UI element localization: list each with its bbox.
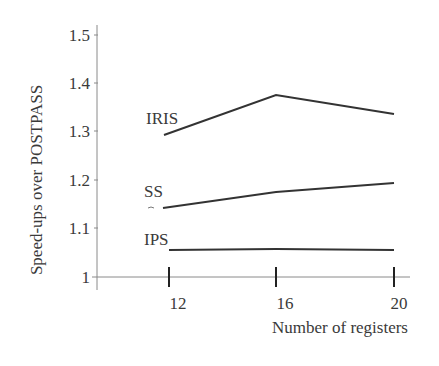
y-tick-label: 1	[82, 268, 91, 287]
y-tick-labels: 1.5 1.4 1.3 1.2 1.1 1	[69, 26, 91, 287]
y-axis-title: Speed-ups over POSTPASS	[27, 85, 46, 275]
y-tick-label: 1.1	[69, 219, 90, 238]
x-tick-labels: 12 16 20	[170, 294, 408, 313]
series-line-ips	[169, 249, 394, 250]
y-tick-label: 1.3	[69, 122, 90, 141]
x-tick-label: 20	[391, 294, 408, 313]
y-tick-label: 1.2	[69, 171, 90, 190]
line-chart: 1.5 1.4 1.3 1.2 1.1 1 12 16 20 Number of…	[0, 0, 439, 366]
series-label-ss: SS	[144, 182, 163, 201]
series-line-iris	[164, 95, 394, 135]
stray-mark	[148, 207, 154, 208]
series-line-ss	[163, 183, 394, 208]
y-tick-label: 1.5	[69, 26, 90, 45]
x-tick-label: 12	[170, 294, 187, 313]
x-axis-title: Number of registers	[272, 318, 408, 337]
series-label-iris: IRIS	[146, 109, 178, 128]
y-tick-label: 1.4	[69, 74, 91, 93]
series-label-ips: IPS	[144, 230, 169, 249]
x-tick-label: 16	[277, 294, 294, 313]
